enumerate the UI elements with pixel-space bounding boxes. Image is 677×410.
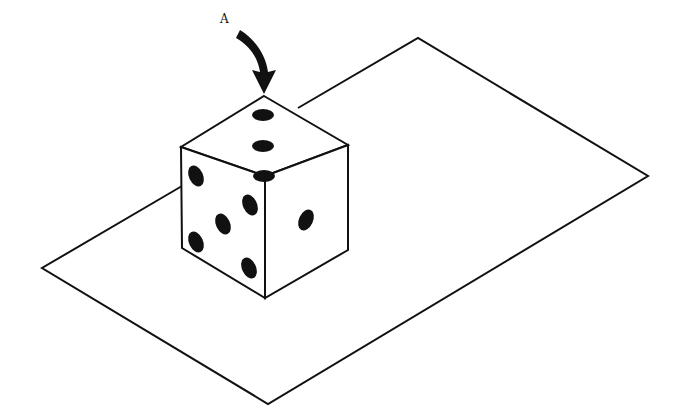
arrow-icon <box>236 30 276 94</box>
die <box>181 96 348 298</box>
label-a: A <box>220 12 229 26</box>
die-on-plane-diagram <box>0 0 677 410</box>
